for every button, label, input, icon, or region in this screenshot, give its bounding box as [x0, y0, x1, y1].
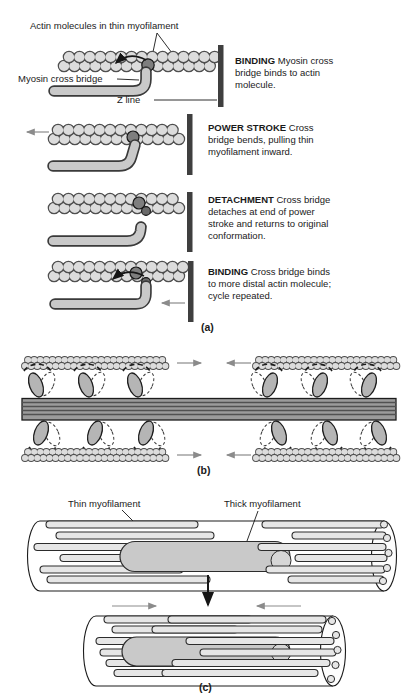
step4-binding-text: BINDING Cross bridge binds to more dista…	[208, 266, 331, 302]
z-line-bar	[218, 45, 224, 107]
myosin-cross-bridge	[53, 227, 141, 241]
step-keyword: BINDING	[208, 266, 248, 277]
step-line: cycle repeated.	[208, 290, 331, 302]
panel-b-sarcomere-drawing	[22, 360, 400, 458]
cylinder-left-cap	[28, 521, 40, 591]
thick-filament-bar	[22, 399, 396, 421]
panel-a-caption: (a)	[201, 321, 214, 333]
muscle-contraction-figure: Actin molecules in thin myofilament Myos…	[0, 0, 411, 696]
step-line: Myosin cross	[278, 55, 333, 66]
myosin-head	[257, 419, 291, 454]
step-keyword: DETACHMENT	[208, 194, 274, 205]
step-line: stroke and returns to original	[208, 218, 330, 230]
myosin-cross-bridge	[55, 286, 146, 304]
step2-power-stroke-text: POWER STROKE Cross bridge bends, pulling…	[208, 122, 314, 158]
thin-myofilament-label: Thin myofilament	[68, 498, 140, 510]
myosin-head	[24, 364, 58, 399]
step4-binding-drawing	[54, 261, 194, 322]
myosin-cross-bridge-label: Myosin cross bridge	[18, 73, 102, 85]
diagram-canvas	[0, 0, 411, 696]
leader-line	[157, 33, 172, 53]
step-line: Cross bridge	[276, 194, 330, 205]
myosin-cross-bridge	[53, 145, 135, 166]
z-line-bar	[187, 114, 193, 175]
step-line: myofilament inward.	[208, 146, 314, 158]
z-line-bar	[188, 261, 194, 322]
step-line: to more distal actin molecule;	[208, 278, 331, 290]
step2-power-stroke-drawing	[27, 114, 193, 175]
step-line: molecule.	[235, 79, 333, 91]
step-line: Cross	[289, 122, 314, 133]
leader-line	[153, 33, 157, 52]
step-keyword: POWER STROKE	[208, 122, 286, 133]
step-line: Cross bridge binds	[251, 266, 330, 277]
step3-detachment-text: DETACHMENT Cross bridge detaches at end …	[208, 194, 330, 242]
step-line: conformation.	[208, 230, 330, 242]
step1-binding-text: BINDING Myosin cross bridge binds to act…	[235, 55, 333, 91]
label-pointer	[117, 79, 139, 80]
step-keyword: BINDING	[235, 55, 275, 66]
label-pointer	[247, 511, 258, 541]
cylinder-left-cap	[84, 616, 97, 686]
z-line-bar	[187, 192, 193, 252]
panel-c-caption: (c)	[199, 681, 212, 693]
panel-b-caption: (b)	[197, 464, 210, 476]
myosin-head	[248, 364, 282, 399]
panel-c-relaxed-myofibril	[28, 510, 397, 591]
thick-myofilament-label: Thick myofilament	[224, 498, 301, 510]
step3-detachment-drawing	[53, 192, 193, 252]
step-line: bridge bends, pulling thin	[208, 134, 314, 146]
binding-site-bead	[142, 207, 151, 216]
step-line: detaches at end of power	[208, 206, 330, 218]
z-line-label: Z line	[117, 94, 140, 106]
step-line: bridge binds to actin	[235, 67, 333, 79]
actin-molecules-label: Actin molecules in thin myofilament	[30, 20, 178, 32]
panel-c-contracted-myofibril	[84, 616, 346, 686]
